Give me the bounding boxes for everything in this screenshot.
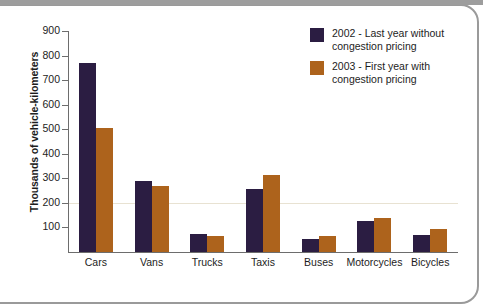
bar[interactable]	[357, 221, 374, 252]
legend-label-series-1-line1: 2002 - Last year without	[332, 27, 444, 39]
bar[interactable]	[430, 229, 447, 252]
bar[interactable]	[79, 63, 96, 252]
legend-label-series-2-line2: congestion pricing	[332, 73, 417, 85]
x-axis-line	[68, 252, 458, 253]
bar[interactable]	[135, 181, 152, 252]
bar[interactable]	[96, 128, 113, 252]
x-axis-tick-label: Motorcycles	[346, 256, 402, 268]
bar-group	[189, 31, 225, 252]
y-axis-tick-label: 400	[26, 147, 60, 159]
y-axis-tick-label: 200	[26, 196, 60, 208]
x-axis-tick-label: Vans	[140, 256, 163, 268]
bar[interactable]	[302, 239, 319, 252]
bar[interactable]	[374, 218, 391, 252]
x-axis-tick-label: Buses	[304, 256, 333, 268]
x-axis-tick-label: Bicycles	[411, 256, 450, 268]
y-axis-tick-label: 800	[26, 49, 60, 61]
bar[interactable]	[207, 236, 224, 252]
legend-item-series-2[interactable]: 2003 - First year with congestion pricin…	[310, 60, 475, 85]
bar[interactable]	[413, 235, 430, 252]
legend-label-series-2: 2003 - First year with congestion pricin…	[332, 60, 430, 85]
bar[interactable]	[152, 186, 169, 252]
bar-group	[78, 31, 114, 252]
bar[interactable]	[263, 175, 280, 252]
y-axis-tick-label: 500	[26, 122, 60, 134]
x-axis-tick-label: Cars	[85, 256, 107, 268]
chart-legend: 2002 - Last year without congestion pric…	[310, 27, 475, 93]
bar[interactable]	[246, 189, 263, 252]
legend-label-series-1-line2: congestion pricing	[332, 40, 417, 52]
y-axis-tick-label: 700	[26, 73, 60, 85]
bar-group	[245, 31, 281, 252]
y-axis-tick-label: 100	[26, 220, 60, 232]
legend-swatch-icon-series-1	[310, 28, 324, 42]
legend-item-series-1[interactable]: 2002 - Last year without congestion pric…	[310, 27, 475, 52]
bar-group	[134, 31, 170, 252]
x-axis-tick-label: Trucks	[192, 256, 223, 268]
legend-swatch-icon-series-2	[310, 61, 324, 75]
bar[interactable]	[319, 236, 336, 252]
x-axis-tick-label: Taxis	[251, 256, 275, 268]
bar[interactable]	[190, 234, 207, 252]
y-axis-tick-label: 600	[26, 98, 60, 110]
legend-label-series-1: 2002 - Last year without congestion pric…	[332, 27, 444, 52]
y-axis-tick-label: 900	[26, 24, 60, 36]
y-axis-tick-label: 300	[26, 171, 60, 183]
legend-label-series-2-line1: 2003 - First year with	[332, 60, 430, 72]
